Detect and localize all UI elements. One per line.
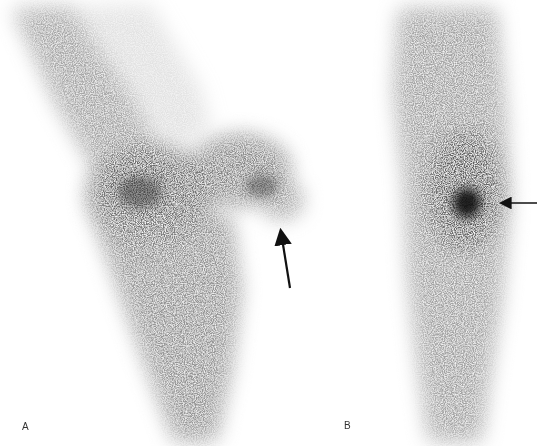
scintigraphy-figure [0,0,548,446]
panel-a-arrow [281,232,290,288]
panel-a-image [14,5,302,440]
panel-b-image [395,10,508,440]
panel-b-hotspot [453,188,481,218]
panel-a-label: A [22,421,29,432]
panel-b-label: B [344,420,351,431]
